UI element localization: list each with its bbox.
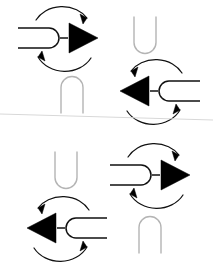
arc-arrow-top-head: [172, 151, 179, 161]
arc-arrow-top: [131, 60, 182, 73]
u-connector: [110, 165, 151, 185]
triangle-pointer: [27, 213, 56, 243]
u-shape-top-right: [134, 17, 156, 54]
horizon-line: [0, 114, 213, 120]
u-outline-path: [61, 77, 83, 114]
u-outline-path: [139, 217, 161, 254]
arc-arrow-bottom: [38, 57, 91, 71]
diagram-root: [0, 0, 213, 272]
arc-arrow-bottom: [127, 110, 180, 124]
u-shape-bottom-right-lower: [139, 217, 161, 254]
u-shape-bottom-left-upper: [55, 152, 77, 189]
triangle-pointer: [161, 160, 190, 190]
u-connector: [66, 218, 107, 238]
arc-arrow-top-head: [80, 14, 87, 24]
u-connector: [159, 81, 200, 101]
arc-arrow-top: [38, 197, 89, 210]
arc-arrow-top-head: [38, 204, 45, 214]
rotation-symbol-bottom-right: [110, 144, 190, 209]
arc-arrow-top: [128, 144, 179, 157]
u-outline-path: [134, 17, 156, 54]
triangle-pointer: [69, 23, 98, 53]
u-outline-path: [55, 152, 77, 189]
triangle-pointer: [120, 76, 149, 106]
arc-arrow-top-head: [131, 67, 138, 77]
arc-arrow-bottom: [130, 194, 183, 208]
u-connector: [18, 28, 59, 48]
rotation-symbol-bottom-left: [27, 197, 107, 262]
diagram-canvas: [0, 0, 213, 272]
u-shape-mid-left: [61, 77, 83, 114]
rotation-symbol-top-left: [18, 7, 98, 72]
rotation-symbol-mid-right: [120, 60, 200, 125]
arc-arrow-top: [36, 7, 87, 20]
arc-arrow-bottom: [34, 247, 87, 261]
